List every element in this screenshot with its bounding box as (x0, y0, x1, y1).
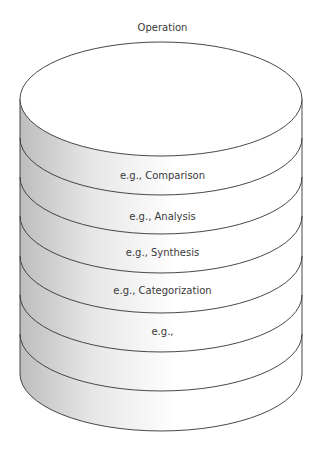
layer-label-blank: e.g., (0, 326, 325, 337)
layer-label-comparison: e.g., Comparison (0, 170, 325, 181)
layer-label-categorization: e.g., Categorization (0, 285, 325, 296)
diagram-title: Operation (0, 22, 325, 33)
layer-label-synthesis: e.g., Synthesis (0, 247, 325, 258)
layer-label-analysis: e.g., Analysis (0, 211, 325, 222)
cylinder-top (20, 42, 302, 156)
cylinder-stack (0, 0, 325, 454)
